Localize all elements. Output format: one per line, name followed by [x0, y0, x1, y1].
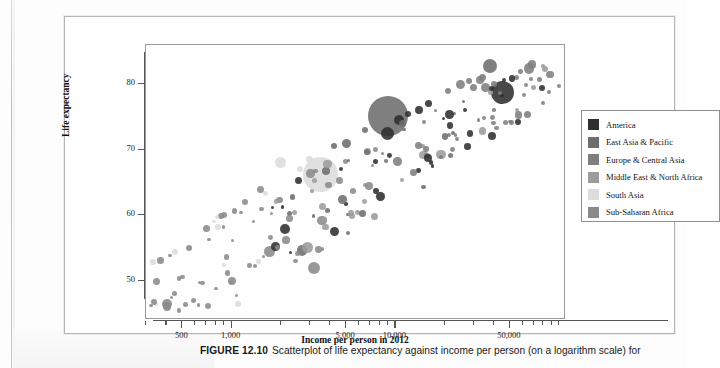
x-tick-major — [181, 321, 182, 328]
data-point — [448, 153, 454, 159]
y-tick — [138, 83, 145, 84]
figure-caption-text: Scatterplot of life expectancy against i… — [272, 345, 641, 356]
legend-label: Sub-Saharan Africa — [606, 207, 674, 217]
data-point — [384, 159, 388, 163]
data-point — [200, 281, 205, 286]
data-point — [325, 182, 332, 189]
data-point — [347, 159, 351, 163]
data-point — [445, 110, 454, 119]
x-tick-major — [231, 321, 232, 328]
data-point — [295, 251, 300, 256]
data-point — [518, 69, 522, 73]
data-point — [421, 185, 425, 189]
x-tick-minor — [194, 321, 195, 325]
legend-item: South Asia — [588, 186, 719, 204]
data-point — [477, 118, 481, 122]
legend-item: Europe & Central Asia — [588, 151, 719, 169]
data-point — [253, 264, 257, 268]
legend-swatch — [588, 154, 599, 165]
data-point — [342, 139, 351, 148]
legend-swatch — [588, 207, 599, 218]
data-point — [225, 270, 231, 276]
x-axis-title: Income per person in 2012 — [145, 335, 565, 345]
data-point — [289, 251, 292, 254]
data-point — [462, 100, 465, 103]
data-point — [373, 159, 378, 164]
y-tick — [138, 280, 145, 281]
data-point — [425, 100, 432, 107]
legend-item: America — [588, 116, 719, 134]
page-edge-fill — [13, 0, 15, 368]
data-point — [450, 147, 455, 152]
data-point — [541, 101, 545, 105]
x-tick-minor — [522, 321, 523, 325]
data-point — [455, 137, 459, 141]
data-point — [247, 263, 252, 268]
data-point — [349, 213, 355, 219]
data-point — [524, 111, 531, 118]
x-tick-minor — [542, 321, 543, 325]
data-point — [262, 255, 265, 258]
data-point — [362, 127, 368, 133]
data-point — [312, 214, 316, 218]
data-point — [371, 213, 378, 220]
data-point — [268, 235, 273, 240]
data-point — [524, 83, 528, 87]
scatter-points-layer — [146, 45, 564, 318]
data-point — [151, 299, 157, 305]
data-point — [339, 167, 343, 171]
data-point — [325, 208, 330, 213]
legend-label: America — [606, 120, 636, 130]
data-point — [321, 247, 325, 251]
data-point — [371, 164, 374, 167]
data-point — [177, 308, 182, 313]
data-point — [494, 126, 499, 131]
legend-item: East Asia & Pacific — [588, 134, 719, 152]
data-point — [434, 109, 437, 112]
data-point — [402, 128, 406, 132]
x-tick-minor — [358, 321, 359, 325]
data-point — [479, 74, 486, 81]
x-tick-minor — [387, 321, 388, 325]
data-point — [463, 108, 467, 112]
data-point — [297, 166, 303, 172]
data-point — [172, 249, 178, 255]
data-point — [515, 119, 521, 125]
data-point — [186, 245, 192, 251]
data-point — [231, 239, 234, 242]
data-point — [381, 127, 394, 140]
x-tick-minor — [369, 321, 370, 325]
data-point — [350, 188, 356, 194]
data-point — [489, 86, 494, 91]
data-point — [415, 106, 423, 114]
data-point — [256, 259, 261, 264]
data-point — [275, 157, 286, 168]
data-point — [207, 238, 211, 242]
data-point — [302, 242, 313, 253]
data-point — [479, 127, 486, 134]
data-point — [528, 60, 536, 68]
legend-swatch — [588, 119, 599, 130]
legend-swatch — [588, 189, 599, 200]
y-tick — [138, 214, 145, 215]
data-point — [442, 133, 449, 140]
x-tick-minor — [165, 321, 166, 325]
data-point — [310, 189, 314, 193]
y-axis-line — [144, 52, 145, 299]
data-point — [529, 77, 533, 81]
legend-label: Europe & Central Asia — [606, 155, 685, 165]
data-point — [399, 120, 406, 127]
data-point — [215, 224, 221, 230]
plot-area — [145, 44, 565, 319]
data-point — [547, 90, 551, 94]
data-point — [346, 231, 350, 235]
data-point — [293, 259, 297, 263]
data-point — [330, 227, 339, 236]
data-point — [539, 85, 545, 91]
x-tick-minor — [493, 321, 494, 325]
data-point — [177, 276, 182, 281]
data-point — [322, 224, 328, 230]
x-tick-minor — [473, 321, 474, 325]
x-tick-minor — [215, 321, 216, 325]
data-point — [239, 211, 242, 214]
